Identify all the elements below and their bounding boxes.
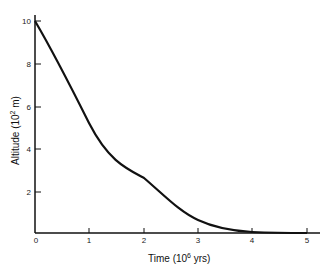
y-tick-label: 2 — [27, 188, 32, 197]
x-axis-label: Time (106 yrs) — [148, 252, 210, 264]
x-tick-label: 1 — [87, 236, 92, 245]
y-ticks: 10 8 6 4 2 — [22, 17, 41, 197]
x-tick-label: 5 — [305, 236, 310, 245]
y-tick-label: 4 — [27, 145, 32, 154]
altitude-chart: 10 8 6 4 2 0 1 2 3 4 5 Time (106 yrs) Al… — [0, 0, 335, 268]
x-tick-label: 3 — [196, 236, 201, 245]
y-axis-label: Altitude (102 m) — [9, 96, 21, 165]
x-tick-label: 0 — [34, 236, 39, 245]
x-tick-label: 2 — [142, 236, 147, 245]
x-ticks: 0 1 2 3 4 5 — [34, 228, 310, 245]
y-tick-label: 10 — [22, 17, 31, 26]
y-tick-label: 6 — [27, 103, 32, 112]
altitude-curve — [35, 21, 307, 233]
x-tick-label: 4 — [250, 236, 255, 245]
y-tick-label: 8 — [27, 60, 32, 69]
